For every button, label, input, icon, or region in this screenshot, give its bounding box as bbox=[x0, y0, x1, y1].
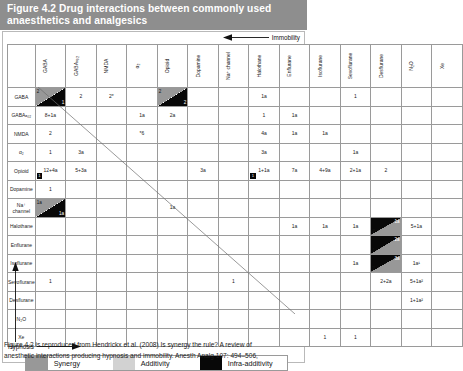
matrix-cell bbox=[432, 217, 463, 236]
matrix-cell bbox=[66, 254, 97, 273]
cell-value: 1a bbox=[341, 255, 371, 273]
matrix-cell bbox=[218, 125, 249, 144]
cell-infra-badge: 1 bbox=[250, 173, 255, 178]
cell-value: 5+1a² bbox=[402, 273, 432, 291]
matrix-cell bbox=[371, 310, 402, 329]
cell-value: 2a bbox=[158, 107, 188, 125]
row-header: Opioid bbox=[8, 162, 36, 181]
matrix-cell: 1 bbox=[35, 273, 66, 292]
matrix-cell bbox=[96, 162, 127, 181]
matrix-cell bbox=[340, 180, 371, 199]
matrix-cell bbox=[188, 291, 219, 310]
matrix-cell bbox=[218, 162, 249, 181]
matrix-cell: 1 bbox=[35, 180, 66, 199]
matrix-cell bbox=[249, 291, 280, 310]
cell-value: 5+1a bbox=[402, 218, 432, 236]
matrix-cell bbox=[310, 88, 341, 107]
cell-value-upper: 1a bbox=[395, 218, 400, 225]
matrix-cell: 1+1a² bbox=[401, 291, 432, 310]
matrix-cell bbox=[35, 291, 66, 310]
matrix-cell bbox=[127, 236, 158, 255]
matrix-cell bbox=[401, 236, 432, 255]
matrix-cell bbox=[188, 199, 219, 218]
cell-value: 1 bbox=[249, 273, 279, 291]
cell-value: 1 bbox=[36, 181, 66, 199]
cell-value-upper: 2a bbox=[395, 236, 400, 243]
matrix-cell bbox=[66, 217, 97, 236]
matrix-cell bbox=[218, 236, 249, 255]
caption-line-2: anesthetic interactions producing hypnos… bbox=[4, 351, 303, 362]
matrix-cell: 21 bbox=[35, 88, 66, 107]
cell-value: 1a bbox=[341, 144, 371, 162]
matrix-cell bbox=[96, 254, 127, 273]
matrix-cell bbox=[432, 310, 463, 329]
matrix-cell bbox=[188, 180, 219, 199]
matrix-cell: 1 bbox=[35, 143, 66, 162]
col-header-n2o: N₂O bbox=[401, 45, 432, 88]
matrix-cell bbox=[35, 310, 66, 329]
matrix-cell: 4a bbox=[249, 125, 280, 144]
matrix-cell bbox=[35, 236, 66, 255]
matrix-cell: 1 bbox=[310, 310, 341, 329]
matrix-cell bbox=[371, 88, 402, 107]
col-header-nmda: NMDA bbox=[96, 45, 127, 88]
cell-value: 3a bbox=[249, 144, 279, 162]
matrix-cell: 3a bbox=[188, 162, 219, 181]
row-header: Enflurane bbox=[8, 236, 36, 255]
matrix-cell bbox=[66, 106, 97, 125]
col-header-desflurane: Desflurane bbox=[371, 45, 402, 88]
row-header: α₂ bbox=[8, 143, 36, 162]
figure-body-frame: Immobility GABA GABAₐ₀₂ NMDA α₂ Opioid D… bbox=[2, 31, 305, 363]
matrix-cell bbox=[96, 217, 127, 236]
matrix-cell bbox=[279, 310, 310, 329]
immobility-left-arrow-icon bbox=[223, 34, 269, 41]
matrix-cell bbox=[310, 236, 341, 255]
matrix-cell: 3a bbox=[249, 143, 280, 162]
cell-value-upper: 2 bbox=[37, 88, 40, 95]
matrix-cell bbox=[96, 236, 127, 255]
matrix-cell bbox=[279, 236, 310, 255]
col-header-gaba: GABA bbox=[35, 45, 66, 88]
matrix-cell bbox=[279, 273, 310, 292]
matrix-row: Dopamine1 bbox=[8, 180, 463, 199]
matrix-cell: 5+3a bbox=[66, 162, 97, 181]
cell-value: 3a bbox=[66, 144, 96, 162]
matrix-cell: 1 bbox=[66, 125, 97, 144]
matrix-corner-cell bbox=[8, 45, 36, 88]
cell-value: 4a bbox=[249, 125, 279, 143]
matrix-cell bbox=[432, 125, 463, 144]
matrix-cell bbox=[371, 328, 402, 347]
cell-value: 3a bbox=[188, 162, 218, 180]
matrix-cell bbox=[310, 106, 341, 125]
cell-value: *6 bbox=[127, 125, 157, 143]
matrix-cell bbox=[127, 143, 158, 162]
matrix-cell bbox=[432, 236, 463, 255]
matrix-cell bbox=[249, 310, 280, 329]
matrix-cell bbox=[279, 199, 310, 218]
immobility-label: Immobility bbox=[272, 34, 300, 41]
matrix-cell bbox=[157, 291, 188, 310]
matrix-cell bbox=[157, 162, 188, 181]
matrix-cell: 1a bbox=[279, 125, 310, 144]
caption-line-1: Figure 4.2 is reproduced from Hendrickx … bbox=[4, 340, 303, 351]
cell-value-lower: 2 bbox=[372, 228, 375, 235]
matrix-cell bbox=[432, 254, 463, 273]
matrix-cell: 1 bbox=[340, 88, 371, 107]
cell-value: 1a bbox=[158, 199, 188, 217]
cell-value-lower: 1a bbox=[59, 210, 64, 217]
matrix-cell: 5+1a bbox=[401, 217, 432, 236]
matrix-cell: 1a bbox=[279, 217, 310, 236]
matrix-cell bbox=[279, 180, 310, 199]
matrix-cell: 3a2 bbox=[371, 254, 402, 273]
matrix-cell: 2* bbox=[96, 88, 127, 107]
matrix-cell: 1 bbox=[249, 273, 280, 292]
matrix-cell bbox=[218, 217, 249, 236]
cell-value: 1a bbox=[280, 218, 310, 236]
matrix-cell bbox=[218, 254, 249, 273]
matrix-cell: 1 bbox=[249, 106, 280, 125]
matrix-cell bbox=[127, 217, 158, 236]
cell-value: 1 bbox=[66, 125, 96, 143]
matrix-cell: 1a bbox=[340, 254, 371, 273]
matrix-cell bbox=[371, 199, 402, 218]
cell-value: 1a bbox=[127, 107, 157, 125]
